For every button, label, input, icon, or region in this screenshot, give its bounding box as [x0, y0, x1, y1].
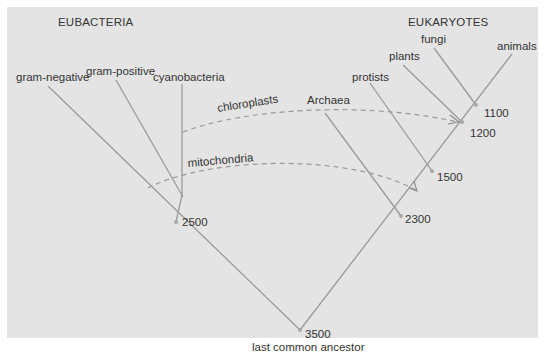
node-1100 — [474, 103, 478, 107]
label-mitochondria: mitochondria — [187, 151, 254, 169]
node-1500 — [430, 169, 434, 173]
label-chloroplasts: chloroplasts — [216, 92, 279, 113]
leaf-label-protists: protists — [352, 71, 389, 83]
age-label-1500: 1500 — [437, 171, 463, 183]
leaf-label-gram-negative: gram-negative — [16, 71, 90, 83]
leaf-label-archaea: Archaea — [307, 94, 350, 106]
leaf-label-cyanobacteria: cyanobacteria — [153, 71, 225, 83]
age-label-2500: 2500 — [182, 216, 208, 228]
node-1200 — [460, 120, 464, 124]
leaf-label-fungi: fungi — [421, 33, 446, 45]
leaf-label-animals: animals — [497, 40, 537, 52]
phylogenetic-tree: EUBACTERIA EUKARYOTES chloroplasts mitoc… — [0, 0, 547, 360]
age-label-1100: 1100 — [484, 107, 509, 119]
node-2500 — [174, 220, 178, 224]
node-2300 — [399, 214, 403, 218]
age-label-2300: 2300 — [405, 213, 431, 225]
leaf-label-plants: plants — [389, 50, 420, 62]
node-root — [298, 328, 302, 332]
branch-archaea — [325, 113, 401, 216]
group-label-eukaryotes: EUKARYOTES — [408, 16, 489, 28]
branch-root-to-gram-negative — [48, 86, 300, 330]
age-label-1200: 1200 — [470, 127, 496, 139]
branch-fungi — [434, 48, 476, 105]
leaf-label-gram-positive: gram-positive — [86, 65, 155, 77]
branch-gram-positive — [116, 80, 183, 197]
branch-protists — [370, 83, 432, 171]
age-label-3500: 3500 — [305, 328, 331, 340]
group-label-eubacteria: EUBACTERIA — [58, 16, 134, 28]
label-last-common-ancestor: last common ancestor — [252, 341, 365, 353]
branch-cyanobacteria — [176, 84, 182, 222]
chloroplasts-arrowhead-icon — [448, 115, 459, 124]
